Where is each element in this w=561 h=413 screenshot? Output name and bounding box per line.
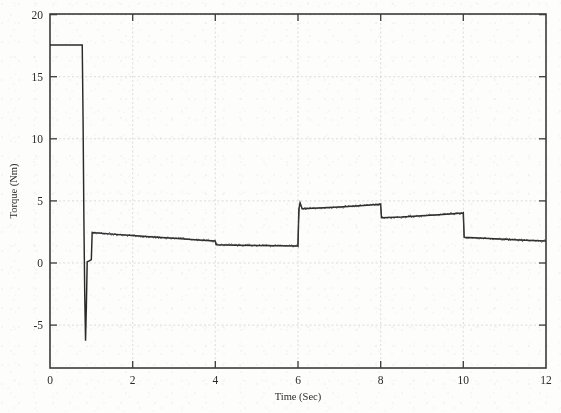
- x-tick-label: 8: [378, 374, 384, 386]
- chart-canvas: -5 0 5 10 15 20 0 2 4 6 8 10 12 Time (Se…: [0, 0, 561, 413]
- x-tick-label: 10: [458, 374, 470, 386]
- grid-vertical: [133, 14, 464, 368]
- x-tick-label: 0: [47, 374, 53, 386]
- y-tick-label: 20: [32, 9, 44, 21]
- y-tick-label: 10: [32, 133, 44, 145]
- y-tick-label: 0: [37, 257, 43, 269]
- y-tick-label: -5: [33, 319, 43, 331]
- torque-vs-time-figure: -5 0 5 10 15 20 0 2 4 6 8 10 12 Time (Se…: [0, 0, 561, 413]
- torque-trace-noise: [92, 203, 546, 247]
- x-tick-label: 4: [212, 374, 218, 386]
- x-tick-label: 12: [540, 374, 552, 386]
- x-axis-title: Time (Sec): [275, 391, 322, 403]
- x-tick-label: 2: [130, 374, 136, 386]
- y-axis-title: Torque (Nm): [8, 163, 20, 218]
- y-axis-tick-labels: -5 0 5 10 15 20: [32, 9, 44, 332]
- x-tick-label: 6: [295, 374, 301, 386]
- x-axis-tick-labels: 0 2 4 6 8 10 12: [47, 374, 552, 386]
- y-tick-label: 5: [37, 195, 43, 207]
- y-tick-label: 15: [32, 71, 44, 83]
